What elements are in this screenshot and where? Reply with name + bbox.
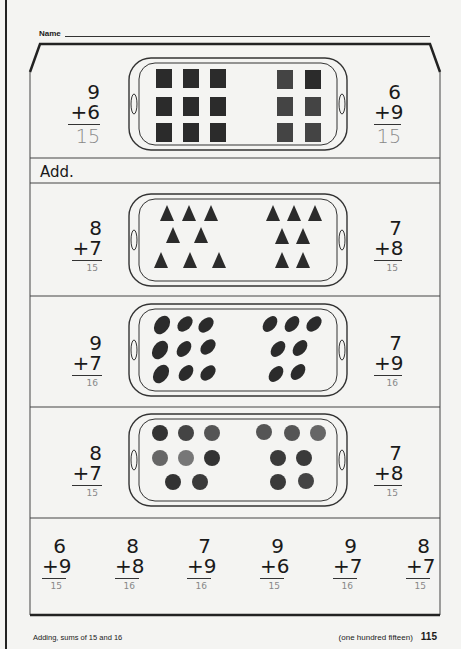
answer: 15 <box>374 261 402 275</box>
drill-problem-3: 7 +9 16 <box>187 536 211 593</box>
tray-round-cookies <box>126 410 350 510</box>
answer: 16 <box>333 579 357 593</box>
answer: 15 <box>72 486 102 500</box>
answer: 15 <box>72 261 102 275</box>
row3-right-problem: 7 +8 15 <box>374 443 402 500</box>
addend-top: 6 <box>42 536 66 556</box>
answer: 15 <box>42 579 66 593</box>
footer-topic: Adding, sums of 15 and 16 <box>33 633 122 642</box>
addend-bottom: +9 <box>42 556 66 576</box>
tray-oval-cookies <box>126 300 350 400</box>
drill-problem-2: 8 +8 16 <box>115 536 139 593</box>
addend-top: 9 <box>68 82 100 102</box>
addend-bottom: +9 <box>187 556 211 576</box>
addend-bottom: +6 <box>68 102 100 122</box>
addend-top: 9 <box>72 333 102 353</box>
drill-problem-4: 9 +6 15 <box>260 536 284 593</box>
addend-bottom: +9 <box>374 353 402 373</box>
addend-top: 8 <box>72 443 102 463</box>
answer: 15 <box>374 125 401 147</box>
tray-triangle-cakes <box>126 190 350 290</box>
answer: 16 <box>187 579 211 593</box>
addend-top: 8 <box>115 536 139 556</box>
addend-top: 7 <box>374 333 402 353</box>
answer: 15 <box>406 579 430 593</box>
footer-page: (one hundred fifteen)115 <box>339 631 437 642</box>
answer: 16 <box>72 376 102 390</box>
addend-bottom: +9 <box>374 102 401 122</box>
answer: 15 <box>260 579 284 593</box>
addend-bottom: +8 <box>374 463 402 483</box>
addend-bottom: +7 <box>406 556 430 576</box>
addend-bottom: +7 <box>72 353 102 373</box>
addend-top: 7 <box>187 536 211 556</box>
answer: 16 <box>115 579 139 593</box>
row3-left-problem: 8 +7 15 <box>72 443 102 500</box>
addend-top: 9 <box>333 536 357 556</box>
drill-problem-5: 9 +7 16 <box>333 536 357 593</box>
row1-right-problem: 7 +8 15 <box>374 218 402 275</box>
addend-top: 8 <box>406 536 430 556</box>
addend-top: 7 <box>374 443 402 463</box>
addend-bottom: +7 <box>72 238 102 258</box>
row2-left-problem: 9 +7 16 <box>72 333 102 390</box>
instruction-add: Add. <box>40 163 74 181</box>
answer: 15 <box>374 486 402 500</box>
addend-top: 7 <box>374 218 402 238</box>
row2-right-problem: 7 +9 16 <box>374 333 402 390</box>
addend-bottom: +8 <box>115 556 139 576</box>
addend-bottom: +7 <box>333 556 357 576</box>
addend-bottom: +7 <box>72 463 102 483</box>
addend-bottom: +6 <box>260 556 284 576</box>
drill-problem-6: 8 +7 15 <box>406 536 430 593</box>
row1-left-problem: 8 +7 15 <box>72 218 102 275</box>
tray-squares <box>126 54 350 154</box>
addend-top: 8 <box>72 218 102 238</box>
example-left-problem: 9 +6 15 <box>68 82 100 147</box>
addend-top: 9 <box>260 536 284 556</box>
answer: 15 <box>68 125 100 147</box>
addend-bottom: +8 <box>374 238 402 258</box>
drill-problem-1: 6 +9 15 <box>42 536 66 593</box>
page-number: 115 <box>421 631 437 642</box>
page-number-words: (one hundred fifteen) <box>339 633 413 642</box>
answer: 16 <box>374 376 402 390</box>
example-right-problem: 6 +9 15 <box>374 82 401 147</box>
addend-top: 6 <box>374 82 401 102</box>
